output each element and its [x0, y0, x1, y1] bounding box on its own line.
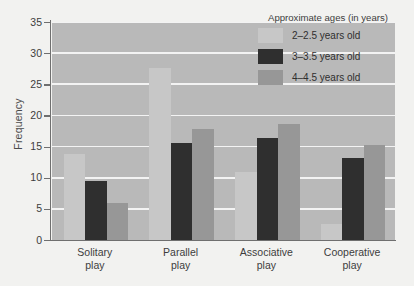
y-axis-tick-label: 25 [16, 79, 42, 90]
legend-swatch [258, 49, 283, 64]
bar [192, 129, 214, 240]
legend-entry: 3–3.5 years old [250, 49, 406, 64]
legend: Approximate ages (in years) 2–2.5 years … [250, 12, 406, 91]
legend-swatch [258, 70, 283, 85]
bar [149, 68, 171, 240]
x-axis-label: Associativeplay [224, 246, 310, 271]
gridline [52, 115, 395, 117]
legend-entry: 4–4.5 years old [250, 70, 406, 85]
legend-entries: 2–2.5 years old3–3.5 years old4–4.5 year… [250, 28, 406, 85]
y-axis-tick-label: 20 [16, 110, 42, 121]
x-axis-label: Parallelplay [138, 246, 224, 271]
legend-label: 3–3.5 years old [292, 51, 360, 62]
legend-label: 4–4.5 years old [292, 72, 360, 83]
y-axis-tick-label: 30 [16, 48, 42, 59]
y-axis-tick [44, 84, 51, 85]
y-axis-tick [44, 115, 51, 116]
y-axis-tick [44, 147, 51, 148]
y-axis-tick-label: 35 [16, 17, 42, 28]
bar [64, 154, 86, 240]
x-axis-label: Solitaryplay [52, 246, 138, 271]
bar [235, 172, 257, 241]
y-axis-tick [44, 209, 51, 210]
legend-label: 2–2.5 years old [292, 30, 360, 41]
legend-swatch [258, 28, 283, 43]
bar [321, 224, 343, 240]
gridline [52, 146, 395, 148]
y-axis-tick [44, 22, 51, 23]
y-axis-tick [44, 178, 51, 179]
y-axis-tick-label: 15 [16, 141, 42, 152]
bar [257, 138, 279, 240]
bar [107, 203, 129, 240]
bar [171, 143, 193, 240]
bar [364, 145, 386, 240]
y-axis-tick-label: 5 [16, 203, 42, 214]
x-axis-label: Cooperativeplay [309, 246, 395, 271]
y-axis-tick [44, 53, 51, 54]
y-axis-tick [44, 240, 51, 241]
bar [85, 181, 107, 240]
bar-chart: Frequency 05101520253035 SolitaryplayPar… [0, 0, 414, 286]
y-axis-tick-label: 0 [16, 235, 42, 246]
y-axis-tick-label: 10 [16, 172, 42, 183]
x-axis-line [50, 240, 396, 241]
legend-entry: 2–2.5 years old [250, 28, 406, 43]
bar [278, 124, 300, 240]
legend-title: Approximate ages (in years) [250, 12, 406, 23]
bar [342, 158, 364, 240]
y-axis-title: Frequency [12, 79, 24, 169]
